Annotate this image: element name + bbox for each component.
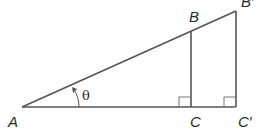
angle-arc xyxy=(74,90,79,107)
right-angle-mark-c xyxy=(179,97,191,107)
label-a: A xyxy=(8,114,18,129)
hypotenuse-ab-prime xyxy=(22,11,236,107)
label-b: B xyxy=(189,9,199,24)
label-c: C xyxy=(190,114,201,129)
label-b-prime: B′ xyxy=(241,0,254,9)
triangle-diagram xyxy=(0,0,265,137)
label-theta: θ xyxy=(82,89,90,102)
angle-arrowhead-icon xyxy=(72,87,77,93)
right-angle-mark-c-prime xyxy=(224,97,236,107)
label-c-prime: C′ xyxy=(238,114,252,129)
